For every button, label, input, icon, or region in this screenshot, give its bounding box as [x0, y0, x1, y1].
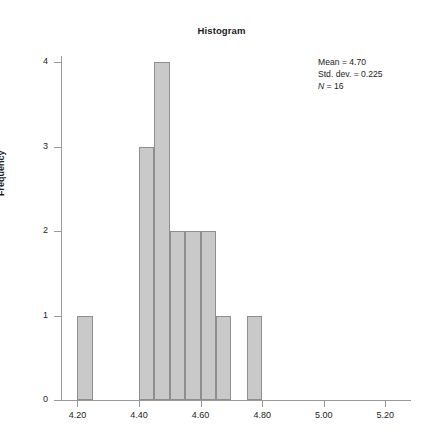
y-axis-title: Frequency	[0, 150, 6, 196]
y-tick-label-1: 1	[0, 310, 48, 320]
x-tick-label-4.60: 4.60	[171, 410, 231, 420]
histogram-bar	[185, 231, 200, 400]
stat-stddev: Std. dev. = 0.225	[318, 68, 383, 80]
stat-mean: Mean = 4.70	[318, 56, 383, 68]
histogram-bar	[170, 231, 185, 400]
statistics-annotation: Mean = 4.70 Std. dev. = 0.225 N = 16	[318, 56, 383, 93]
x-tick-label-4.80: 4.80	[232, 410, 292, 420]
y-tick-2	[54, 231, 62, 232]
stat-n-value: = 16	[324, 81, 343, 91]
y-tick-label-0: 0	[0, 394, 48, 404]
x-tick-4.20	[77, 400, 78, 407]
x-tick-label-5.00: 5.00	[294, 410, 354, 420]
plot-area	[62, 62, 410, 400]
stat-n: N = 16	[318, 80, 383, 92]
histogram-bar	[201, 231, 216, 400]
x-tick-4.40	[139, 400, 140, 407]
x-tick-label-4.40: 4.40	[109, 410, 169, 420]
histogram-bar	[154, 62, 169, 400]
y-tick-label-3: 3	[0, 141, 48, 151]
y-tick-4	[54, 62, 62, 63]
x-tick-label-4.20: 4.20	[47, 410, 107, 420]
histogram-bar	[139, 147, 154, 401]
x-tick-label-5.20: 5.20	[355, 410, 415, 420]
y-tick-1	[54, 316, 62, 317]
x-axis-line	[62, 400, 411, 401]
y-tick-3	[54, 147, 62, 148]
chart-title: Histogram	[0, 25, 443, 36]
x-tick-5.20	[385, 400, 386, 407]
x-tick-4.80	[262, 400, 263, 407]
y-tick-label-2: 2	[0, 225, 48, 235]
histogram-bar	[247, 316, 262, 401]
y-tick-0	[54, 400, 62, 401]
y-tick-label-4: 4	[0, 56, 48, 66]
x-tick-4.60	[201, 400, 202, 407]
x-tick-5.00	[324, 400, 325, 407]
histogram-bar	[77, 316, 92, 401]
histogram-bar	[216, 316, 231, 401]
histogram-chart: Histogram Frequency 01234 4.204.404.604.…	[0, 0, 443, 446]
